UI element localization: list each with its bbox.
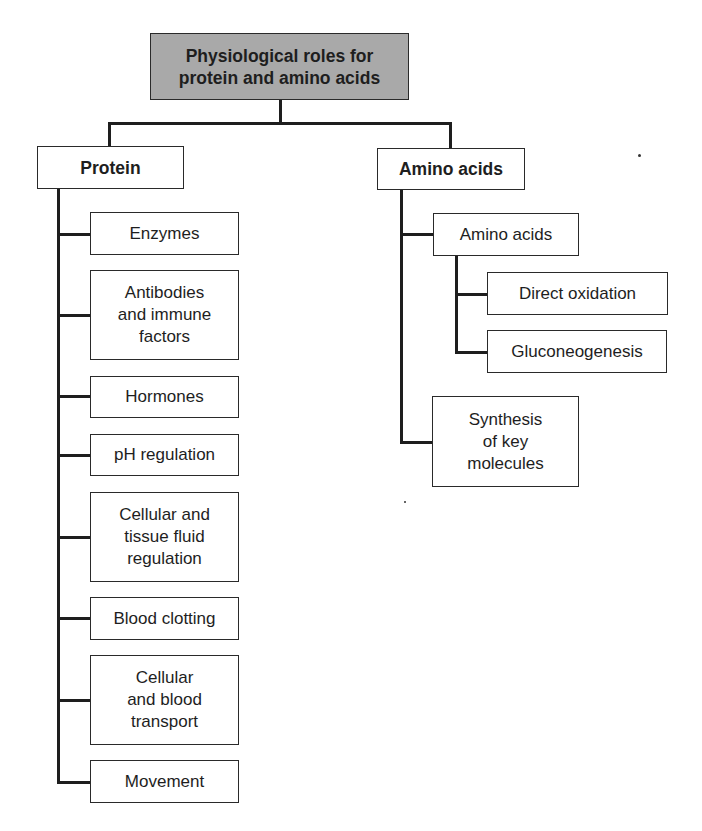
blood-clotting-node: Blood clotting <box>90 597 239 640</box>
connector-movement <box>57 781 91 784</box>
amino-acids-node: Amino acids <box>377 148 525 190</box>
speck <box>638 154 641 157</box>
cellular-blood-transport-node: Cellular and blood transport <box>90 655 239 745</box>
connector-root-horizontal <box>108 122 452 125</box>
connector-ph <box>57 454 91 457</box>
connector-to-amino-acids <box>449 122 452 149</box>
connector-enzymes <box>57 233 91 236</box>
hormones-node: Hormones <box>90 376 239 418</box>
connector-synthesis <box>400 441 434 444</box>
speck <box>404 501 406 503</box>
direct-oxidation-node: Direct oxidation <box>487 272 668 315</box>
connector-hormones <box>57 395 91 398</box>
ph-regulation-node: pH regulation <box>90 434 239 476</box>
synthesis-node: Synthesis of key molecules <box>432 396 579 487</box>
connector-amino-sub <box>400 233 434 236</box>
connector-protein-trunk <box>57 188 60 784</box>
connector-root-down <box>279 99 282 124</box>
connector-direct-oxidation <box>455 293 488 296</box>
protein-node: Protein <box>37 146 184 189</box>
connector-cellular-tissue <box>57 536 91 539</box>
cellular-tissue-node: Cellular and tissue fluid regulation <box>90 492 239 582</box>
connector-cellular-blood <box>57 699 91 702</box>
connector-blood-clotting <box>57 617 91 620</box>
connector-amino-trunk <box>400 189 403 443</box>
connector-antibodies <box>57 314 91 317</box>
root-node: Physiological roles for protein and amin… <box>150 33 409 100</box>
gluconeogenesis-node: Gluconeogenesis <box>487 330 667 373</box>
enzymes-node: Enzymes <box>90 212 239 255</box>
amino-acids-sub-node: Amino acids <box>433 213 579 256</box>
antibodies-node: Antibodies and immune factors <box>90 270 239 360</box>
connector-gluconeogenesis <box>455 351 488 354</box>
connector-amino-sub-trunk <box>455 255 458 353</box>
connector-to-protein <box>108 122 111 147</box>
movement-node: Movement <box>90 760 239 803</box>
